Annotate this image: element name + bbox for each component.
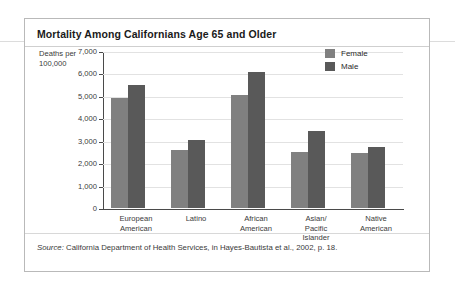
bar-male xyxy=(368,147,385,208)
y-axis-tick-label: 1,000 xyxy=(57,182,97,191)
legend-swatch-icon xyxy=(325,49,335,58)
source-text: California Department of Health Services… xyxy=(64,243,337,252)
y-axis-tick-label: 4,000 xyxy=(57,114,97,123)
figure-title: Mortality Among Californians Age 65 and … xyxy=(37,28,276,40)
bar-group xyxy=(223,51,283,208)
y-axis-tick-label: 5,000 xyxy=(57,92,97,101)
y-axis-tick xyxy=(99,209,103,210)
bar-female xyxy=(291,152,308,208)
bar-male xyxy=(248,72,265,208)
y-axis-tick-label: 2,000 xyxy=(57,159,97,168)
bar-group xyxy=(103,51,163,208)
legend-swatch-icon xyxy=(325,62,335,71)
legend-label: Female xyxy=(341,49,368,58)
source-divider xyxy=(25,233,429,234)
bar-female xyxy=(231,95,248,208)
legend-item-male: Male xyxy=(325,62,368,71)
chart-legend: FemaleMale xyxy=(325,49,368,75)
bar-group xyxy=(163,51,223,208)
bar-female xyxy=(171,150,188,208)
source-label: Source: xyxy=(37,243,64,252)
bar-male xyxy=(128,85,145,208)
y-axis-tick-label: 6,000 xyxy=(57,69,97,78)
bar-male xyxy=(308,131,325,208)
legend-label: Male xyxy=(341,62,358,71)
y-axis-tick-label: 7,000 xyxy=(57,47,97,56)
source-citation: Source: California Department of Health … xyxy=(37,243,337,252)
bar-female xyxy=(111,98,128,208)
y-axis-tick-label: 0 xyxy=(57,204,97,213)
y-axis-tick-label: 3,000 xyxy=(57,137,97,146)
bar-male xyxy=(188,140,205,208)
figure-container: Mortality Among Californians Age 65 and … xyxy=(24,18,430,272)
x-axis-line xyxy=(103,209,404,210)
chart-plot-area: 01,0002,0003,0004,0005,0006,0007,000Euro… xyxy=(103,52,403,209)
legend-item-female: Female xyxy=(325,49,368,58)
x-axis-category-label: NativeAmerican xyxy=(339,214,413,233)
bar-female xyxy=(351,153,368,208)
